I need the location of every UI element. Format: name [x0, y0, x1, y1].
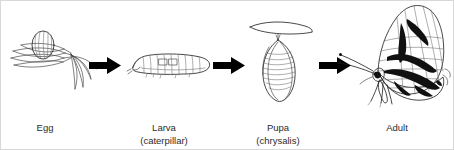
stage-illustration-adult — [338, 5, 450, 107]
butterfly-life-cycle-diagram: Egg Larva (caterpillar) Pupa (chrysalis)… — [1, 1, 454, 150]
stage-sublabel-larva: (caterpillar) — [140, 135, 188, 146]
stage-illustration-egg — [11, 31, 96, 89]
stage-illustration-pupa — [250, 22, 312, 102]
arrow-larva-to-pupa — [213, 57, 245, 74]
stage-illustration-larva — [127, 54, 210, 78]
arrow-egg-to-larva — [89, 57, 121, 74]
stage-label-egg: Egg — [37, 122, 54, 133]
stage-labels: Egg Larva (caterpillar) Pupa (chrysalis)… — [37, 122, 409, 146]
stage-label-pupa: Pupa — [267, 122, 290, 133]
stage-sublabel-pupa: (chrysalis) — [256, 135, 299, 146]
arrow-pupa-to-adult — [319, 57, 351, 74]
stage-label-larva: Larva — [152, 122, 176, 133]
stage-label-adult: Adult — [386, 122, 408, 133]
